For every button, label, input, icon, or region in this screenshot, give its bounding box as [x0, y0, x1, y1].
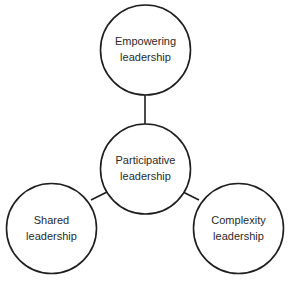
- node-empowering-leadership: Empowering leadership: [101, 5, 191, 95]
- node-complexity-leadership: Complexity leadership: [194, 184, 284, 274]
- node-label-line2: leadership: [120, 51, 171, 63]
- leadership-diagram: Empowering leadership Participative lead…: [0, 0, 291, 282]
- node-shared-leadership: Shared leadership: [7, 184, 97, 274]
- edge-participative-shared: [91, 192, 107, 200]
- node-circle: [7, 184, 97, 274]
- node-label-line2: leadership: [213, 230, 264, 242]
- node-circle: [194, 184, 284, 274]
- node-participative-leadership: Participative leadership: [101, 124, 191, 214]
- node-label-line1: Empowering: [115, 35, 176, 47]
- node-label-line1: Complexity: [211, 214, 266, 226]
- edge-participative-complexity: [183, 192, 199, 200]
- node-label-line1: Participative: [116, 154, 176, 166]
- node-label-line1: Shared: [34, 214, 69, 226]
- node-label-line2: leadership: [26, 230, 77, 242]
- node-label-line2: leadership: [120, 170, 171, 182]
